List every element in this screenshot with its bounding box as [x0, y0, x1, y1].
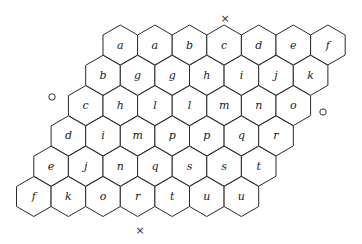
hex-label: a	[152, 39, 159, 52]
cross-marker-top: ×	[220, 12, 229, 25]
hex-label: m	[219, 99, 229, 112]
hex-label: u	[238, 190, 245, 203]
circle-marker-left	[49, 94, 55, 100]
hex-label: e	[290, 39, 297, 52]
hex-label: t	[256, 160, 261, 173]
hex-label: b	[99, 69, 106, 82]
hex-grid: aabcdefbgghijkchllmnodimppqrejnqsstfkort…	[17, 25, 346, 217]
hex-label: s	[221, 160, 227, 173]
hex-label: o	[290, 99, 297, 112]
hex-label: k	[307, 69, 314, 82]
hex-label: i	[101, 129, 105, 142]
hex-label: t	[170, 190, 175, 203]
hex-label: i	[240, 69, 244, 82]
hex-label: l	[188, 99, 192, 112]
hex-label: q	[238, 129, 245, 142]
hex-label: c	[221, 39, 227, 52]
hex-label: q	[151, 160, 158, 173]
hex-label: s	[187, 160, 193, 173]
hex-label: e	[48, 160, 55, 173]
hex-label: p	[169, 129, 176, 142]
hex-label: n	[117, 160, 124, 173]
circle-marker-right	[320, 109, 326, 115]
hex-label: n	[255, 99, 262, 112]
hex-label: g	[169, 69, 176, 82]
hex-label: p	[203, 129, 210, 142]
hex-label: u	[203, 190, 210, 203]
hex-label: b	[186, 39, 193, 52]
hex-label: g	[134, 69, 141, 82]
cross-marker-bottom: ×	[135, 224, 144, 237]
hex-label: c	[83, 99, 89, 112]
hex-label: r	[273, 129, 279, 142]
hex-label: h	[117, 99, 124, 112]
hex-label: r	[135, 190, 141, 203]
hex-label: o	[100, 190, 107, 203]
hex-label: l	[153, 99, 157, 112]
hex-label: d	[255, 39, 262, 52]
hex-label: h	[203, 69, 210, 82]
hex-label: k	[65, 190, 72, 203]
hex-label: d	[65, 129, 72, 142]
hex-board: aabcdefbgghijkchllmnodimppqrejnqsstfkort…	[0, 0, 362, 244]
hex-label: m	[132, 129, 142, 142]
hex-label: a	[117, 39, 124, 52]
